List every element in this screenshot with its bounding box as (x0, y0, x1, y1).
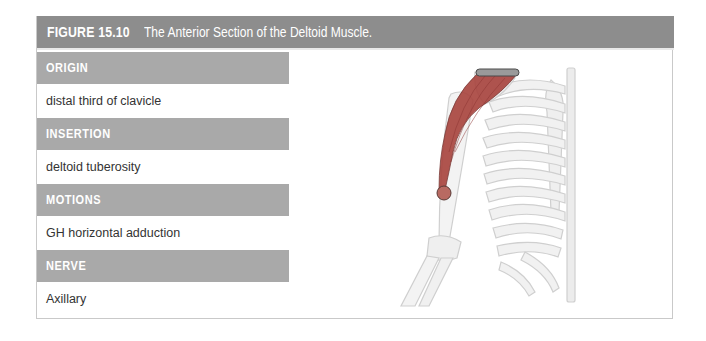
section-value-nerve: Axillary (37, 282, 289, 316)
origin-marker (476, 69, 519, 76)
section-heading-insertion: INSERTION (37, 118, 289, 150)
section-heading-nerve: NERVE (37, 250, 289, 282)
section-value-insertion: deltoid tuberosity (37, 150, 289, 184)
section-heading-origin: ORIGIN (37, 52, 289, 84)
muscle-info-table: ORIGIN distal third of clavicle INSERTIO… (37, 52, 289, 316)
figure-title: The Anterior Section of the Deltoid Musc… (144, 24, 372, 40)
figure-header: FIGURE 15.10 The Anterior Section of the… (37, 16, 674, 50)
skeleton-illustration (289, 52, 672, 318)
section-heading-motions: MOTIONS (37, 184, 289, 216)
anatomy-illustration (289, 52, 672, 318)
figure-panel: FIGURE 15.10 The Anterior Section of the… (36, 16, 673, 319)
figure-number: FIGURE 15.10 (47, 24, 130, 40)
section-value-motions: GH horizontal adduction (37, 216, 289, 250)
insertion-marker (437, 186, 451, 200)
section-value-origin: distal third of clavicle (37, 84, 289, 118)
